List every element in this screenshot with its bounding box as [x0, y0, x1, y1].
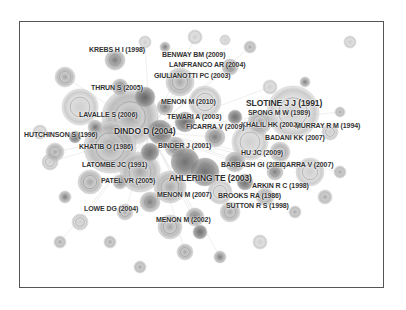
node-label: MENON M (2007): [157, 191, 212, 199]
network-node: [62, 89, 98, 125]
node-label: THRUN S (2005): [91, 84, 143, 92]
network-node: [46, 143, 64, 161]
node-label: BADANI KK (2007): [265, 134, 325, 142]
network-node: [55, 67, 75, 87]
network-node: [334, 166, 346, 178]
node-label: BROOKS RA (1986): [218, 192, 281, 200]
network-node: [300, 77, 310, 87]
node-label: DINDO D (2004): [114, 127, 175, 135]
node-label: HUTCHINSON S (1996): [24, 131, 98, 139]
node-label: MENON M (2002): [156, 216, 211, 224]
network-node: [244, 41, 256, 53]
network-node: [193, 225, 207, 239]
network-node: [104, 236, 116, 248]
node-label: FICARRA V (2009): [186, 123, 244, 131]
node-label: SPONG M W (1989): [248, 109, 310, 117]
network-node: [134, 261, 146, 273]
node-label: MENON M (2010): [161, 98, 216, 106]
network-node: [72, 214, 88, 230]
node-label: MURRAY R M (1994): [295, 122, 360, 130]
node-label: KHALIL HK (2002): [241, 121, 299, 129]
node-label: GIULIANOTTI PC (2003): [154, 72, 230, 80]
node-label: LOWE DG (2004): [84, 205, 138, 213]
network-node: [59, 191, 71, 203]
network-node: [214, 251, 226, 263]
network-node: [177, 244, 193, 260]
node-label: LANFRANCO AR (2004): [169, 61, 245, 69]
node-label: LAVALLE S (2006): [79, 111, 137, 119]
node-label: PATEL VR (2005): [101, 177, 155, 185]
node-label: BENWAY BM (2009): [162, 51, 225, 59]
network-node: [263, 80, 277, 94]
node-label: AHLERING TE (2003): [169, 174, 252, 182]
node-label: KREBS H I (1998): [89, 46, 145, 54]
network-node: [188, 30, 202, 44]
node-label: ARKIN R C (1998): [252, 182, 309, 190]
network-node: [220, 35, 230, 45]
node-label: BINDER J (2001): [158, 142, 211, 150]
network-node: [54, 236, 66, 248]
network-node: [289, 206, 301, 218]
node-label: SUTTON R S (1998): [226, 202, 289, 210]
node-label: LATOMBE JC (1991): [82, 161, 147, 169]
network-node: [78, 170, 102, 194]
network-node: [228, 110, 242, 124]
node-label: HU JC (2009): [241, 149, 283, 157]
node-label: FICARRA V (2007): [275, 161, 333, 169]
node-label: KHATIB O (1986): [79, 143, 133, 151]
node-label: SLOTINE J J (1991): [246, 99, 322, 107]
node-label: TEWARI A (2003): [167, 113, 221, 121]
network-node: [318, 190, 332, 204]
network-node: [171, 148, 199, 176]
network-node: [253, 235, 267, 249]
network-node: [141, 143, 159, 161]
network-frame: KREBS H I (1998)BENWAY BM (2009)LANFRANC…: [19, 21, 384, 288]
network-node: [344, 36, 356, 48]
network-node: [335, 107, 345, 117]
